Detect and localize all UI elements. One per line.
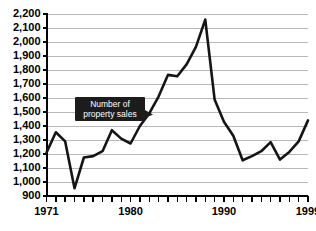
chart-canvas: 9001,0001,1001,2001,3001,4001,5001,6001,… xyxy=(0,0,316,231)
y-axis-tick-label: 1,200 xyxy=(13,147,41,159)
y-axis-tick-label: 2,100 xyxy=(13,21,41,33)
x-axis-tick-label: 1980 xyxy=(118,205,142,217)
y-axis-tick-label: 2,200 xyxy=(13,7,41,19)
y-axis-tick-label: 1,800 xyxy=(13,63,41,75)
x-axis-tick-label: 1990 xyxy=(212,205,236,217)
y-axis-tick-label: 900 xyxy=(22,189,40,201)
x-axis-tick-labels: 1971198019901999 xyxy=(34,205,316,217)
y-axis-tick-label: 1,600 xyxy=(13,91,41,103)
number-of-property-sales-callout: Number of property sales xyxy=(75,97,153,121)
y-axis-tick-label: 1,500 xyxy=(13,105,41,117)
y-axis-tick-label: 1,700 xyxy=(13,77,41,89)
y-axis-tick-label: 1,300 xyxy=(13,133,41,145)
property-sales-line-chart: 9001,0001,1001,2001,3001,4001,5001,6001,… xyxy=(0,0,316,231)
callout-label-line1: Number of xyxy=(90,99,130,109)
y-axis-tick-label: 2,000 xyxy=(13,35,41,47)
y-axis-tick-label: 1,000 xyxy=(13,175,41,187)
y-axis-tick-label: 1,900 xyxy=(13,49,41,61)
callout-label-line2: property sales xyxy=(83,109,136,119)
x-axis-tick-label: 1999 xyxy=(296,205,316,217)
y-axis-tick-label: 1,400 xyxy=(13,119,41,131)
x-axis-tick-label: 1971 xyxy=(34,205,58,217)
y-axis-tick-label: 1,100 xyxy=(13,161,41,173)
y-axis-tick-labels: 9001,0001,1001,2001,3001,4001,5001,6001,… xyxy=(13,7,41,201)
